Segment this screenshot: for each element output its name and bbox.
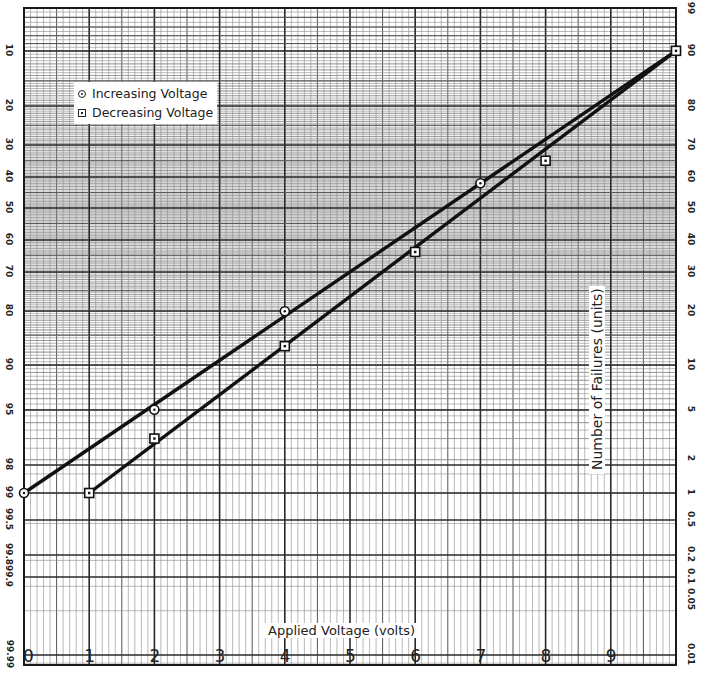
left-tick-label: 98 [4, 458, 14, 471]
left-tick-label: 70 [4, 265, 14, 278]
left-tick-label: 80 [4, 304, 14, 317]
left-tick-label: 10 [4, 44, 14, 57]
left-tick-label: 30 [4, 138, 14, 151]
x-tick-label: 8 [541, 646, 552, 666]
right-tick-label: 80 [686, 99, 696, 112]
right-tick-label: 0.05 [686, 588, 696, 610]
right-tick-label: 0.5 [685, 511, 695, 527]
circle-marker-icon [78, 90, 86, 98]
x-tick-label: 3 [215, 646, 226, 666]
left-tick-label: 60 [4, 233, 14, 246]
left-tick-label: 99.5 [4, 508, 14, 530]
right-tick-label: 70 [686, 138, 696, 151]
x-tick-label: 6 [410, 646, 421, 666]
legend-label-increasing: Increasing Voltage [92, 84, 207, 103]
left-tick-label: 90 [4, 358, 14, 371]
right-tick-label: 0.01 [686, 643, 696, 665]
x-axis-label: Applied Voltage (volts) [264, 623, 419, 638]
right-tick-label: 1 [686, 489, 696, 495]
right-tick-label: 40 [686, 233, 696, 246]
left-tick-label: 95 [4, 403, 14, 416]
right-tick-label: 0.1 [685, 568, 695, 584]
square-marker-icon [78, 109, 86, 117]
x-tick-label: 1 [84, 646, 95, 666]
x-tick-label: 2 [149, 646, 160, 666]
y-axis-label: Number of Failures (units) [589, 286, 605, 474]
left-tick-label: 99 [4, 486, 14, 499]
right-tick-label: 20 [686, 304, 696, 317]
right-tick-label: 60 [686, 170, 696, 183]
x-tick-label: 0 [23, 646, 34, 666]
right-tick-label: 99 [686, 2, 696, 15]
left-tick-label: 99.9 [4, 565, 14, 587]
left-tick-label: 20 [4, 99, 14, 112]
x-tick-label: 4 [280, 646, 291, 666]
legend-label-decreasing: Decreasing Voltage [92, 103, 213, 122]
legend-entry-increasing: Increasing Voltage [78, 84, 213, 103]
x-tick-label: 9 [606, 646, 617, 666]
right-tick-label: 30 [686, 265, 696, 278]
right-tick-label: 10 [686, 358, 696, 371]
right-tick-label: 50 [686, 201, 696, 214]
left-tick-label: 50 [4, 201, 14, 214]
left-tick-label: 99.99 [5, 640, 15, 668]
left-tick-label: 99.8 [4, 543, 14, 565]
legend-entry-decreasing: Decreasing Voltage [78, 103, 213, 122]
right-tick-label: 0.2 [685, 546, 695, 562]
x-tick-label: 7 [475, 646, 486, 666]
right-tick-label: 2 [686, 455, 696, 461]
right-tick-label: 5 [686, 406, 696, 412]
x-tick-label: 5 [345, 646, 356, 666]
right-tick-label: 90 [686, 44, 696, 57]
legend: Increasing Voltage Decreasing Voltage [74, 82, 217, 124]
left-tick-label: 40 [4, 170, 14, 183]
